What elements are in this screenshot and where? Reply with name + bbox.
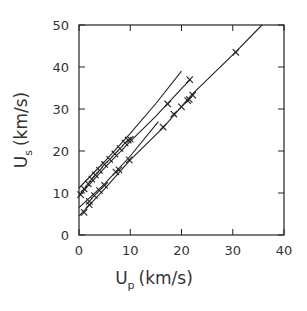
fit-line-fit-2 [79, 79, 191, 196]
y-tick-label: 20 [52, 144, 69, 159]
cross-marker [164, 101, 170, 107]
plot-border [79, 25, 284, 235]
plot-frame [79, 25, 284, 235]
cross-marker [187, 76, 193, 82]
y-tick-label: 30 [52, 102, 69, 117]
y-axis-label: Us(km/s) [11, 92, 35, 168]
y-tick-label: 10 [52, 186, 69, 201]
cross-marker [160, 124, 166, 130]
x-axis-label: Up(km/s) [115, 268, 193, 292]
y-tick-label: 40 [52, 60, 69, 75]
cross-marker [86, 202, 92, 208]
x-tick-label: 20 [173, 243, 190, 258]
y-tick-label: 50 [52, 18, 69, 33]
cross-marker [86, 198, 92, 204]
x-tick-label: 10 [122, 243, 139, 258]
tick-labels: 01020304001020304050 [52, 18, 292, 258]
axis-ticks [79, 25, 284, 235]
x-tick-label: 0 [75, 243, 83, 258]
y-tick-label: 0 [61, 228, 69, 243]
fit-line-fit-3 [79, 122, 158, 208]
chart: 01020304001020304050 Up(km/s) Us(km/s) [0, 0, 307, 311]
cross-marker [233, 49, 239, 55]
cross-marker [77, 191, 83, 197]
cross-marker [171, 111, 177, 117]
cross-marker [190, 92, 196, 98]
x-tick-label: 40 [276, 243, 293, 258]
x-tick-label: 30 [224, 243, 241, 258]
cross-marker [178, 104, 184, 110]
